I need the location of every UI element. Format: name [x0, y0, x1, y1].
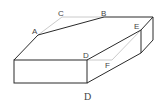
label-D: D: [83, 51, 89, 60]
edge-back-bottom: [141, 40, 153, 53]
segment-AC: [38, 17, 62, 35]
edge-corner-to-E: [141, 17, 153, 30]
edge-left-to-A: [14, 35, 38, 60]
label-C: C: [58, 9, 64, 18]
label-A: A: [32, 27, 38, 36]
geometry-figure: A C B E D F D: [0, 0, 162, 104]
front-face: [14, 60, 87, 83]
label-E: E: [134, 22, 139, 31]
edge-AB: [38, 17, 104, 35]
label-B: B: [101, 9, 106, 18]
figure-caption: D: [84, 91, 91, 102]
edge-E-to-D: [87, 30, 141, 60]
label-F: F: [105, 61, 110, 70]
